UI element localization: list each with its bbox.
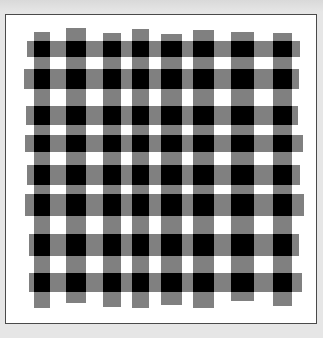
stripe-intersection [132,41,149,57]
stripe-intersection [231,41,254,57]
stripe-intersection [34,69,50,89]
stripe-intersection [103,69,121,89]
stripe-intersection [231,194,254,216]
stripe-intersection [66,273,86,292]
stripe-intersection [132,273,149,292]
stripe-intersection [66,135,86,152]
stripe-intersection [103,41,121,57]
stripe-intersection [161,135,182,152]
stripe-intersection [273,234,292,256]
stripe-intersection [132,194,149,216]
stripe-intersection [132,135,149,152]
stripe-intersection [273,273,292,292]
stripe-intersection [103,273,121,292]
stripe-intersection [193,234,214,256]
stripe-intersection [161,41,182,57]
stripe-intersection [273,135,292,152]
stripe-intersection [34,194,50,216]
stripe-intersection [66,165,86,185]
stripe-intersection [161,273,182,292]
stripe-intersection [66,69,86,89]
stripe-intersection [66,194,86,216]
stripe-intersection [132,106,149,125]
stripe-intersection [161,69,182,89]
stripe-intersection [34,41,50,57]
stripe-intersection [161,106,182,125]
stripe-intersection [103,135,121,152]
stripe-intersection [103,165,121,185]
stripe-intersection [161,234,182,256]
stripe-intersection [193,194,214,216]
stripe-intersection [231,273,254,292]
stripe-intersection [193,106,214,125]
stripe-intersection [66,234,86,256]
stripe-intersection [273,41,292,57]
stripe-intersection [66,41,86,57]
stripe-intersection [66,106,86,125]
stripe-intersection [231,135,254,152]
stripe-intersection [34,106,50,125]
stripe-intersection [34,165,50,185]
stripe-intersection [34,135,50,152]
stripe-intersection [132,69,149,89]
stripe-intersection [231,234,254,256]
stripe-intersection [231,165,254,185]
stripe-intersection [273,69,292,89]
stripe-intersection [132,165,149,185]
stripe-intersection [103,194,121,216]
stripe-intersection [193,273,214,292]
stripe-intersection [193,41,214,57]
stripe-intersection [103,234,121,256]
stripe-intersection [103,106,121,125]
stripe-intersection [273,165,292,185]
stripe-intersection [193,165,214,185]
stripe-intersection [161,165,182,185]
stripe-intersection [34,234,50,256]
stripe-intersection [161,194,182,216]
stripe-intersection [273,194,292,216]
stripe-intersection [193,135,214,152]
stripe-intersection [273,106,292,125]
stripe-intersection [193,69,214,89]
stripe-intersection [231,69,254,89]
stripe-intersection [231,106,254,125]
plaid-intersections [0,0,323,338]
stripe-intersection [132,234,149,256]
stripe-intersection [34,273,50,292]
